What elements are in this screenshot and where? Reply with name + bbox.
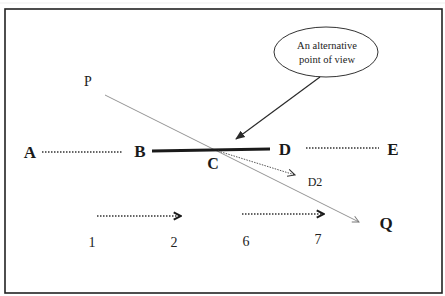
callout-ellipse — [274, 27, 378, 77]
label-b: B — [134, 142, 145, 161]
label-p: P — [84, 74, 92, 89]
thick-line-b-d — [152, 149, 270, 151]
label-q: Q — [379, 214, 392, 233]
label-6: 6 — [243, 234, 250, 249]
callout-line2: point of view — [299, 54, 355, 65]
label-2: 2 — [171, 235, 178, 250]
label-c: C — [207, 155, 219, 172]
label-a: A — [24, 143, 37, 162]
label-1: 1 — [89, 235, 96, 250]
label-d2: D2 — [308, 175, 323, 189]
label-7: 7 — [315, 232, 322, 247]
callout-line1: An alternative — [297, 40, 357, 51]
label-d: D — [279, 140, 291, 159]
callout-pointer-arrow — [236, 77, 320, 139]
label-e: E — [387, 140, 398, 159]
diagram-canvas: An alternative point of view P A B C D E… — [0, 0, 445, 296]
